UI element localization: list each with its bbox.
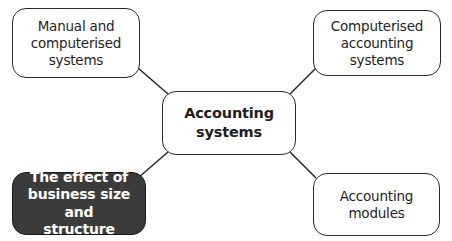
node-line: computerised: [31, 35, 121, 52]
connector-top-left: [138, 68, 168, 94]
node-line: accounting: [331, 35, 423, 52]
node-accounting-modules: Accounting modules: [313, 173, 440, 236]
node-line: modules: [340, 205, 413, 222]
center-line: systems: [184, 123, 274, 142]
node-line: Manual and: [31, 18, 121, 35]
node-line: structure: [13, 221, 145, 239]
connector-bottom-right: [290, 152, 316, 178]
connector-top-right: [290, 68, 316, 94]
node-computerised-accounting-systems: Computerised accounting systems: [313, 10, 441, 76]
center-line: Accounting: [184, 104, 274, 123]
node-line: business size and: [13, 186, 145, 221]
node-line: systems: [31, 52, 121, 69]
node-line: systems: [331, 52, 423, 69]
node-manual-computerised-systems: Manual and computerised systems: [12, 8, 140, 78]
node-line: Computerised: [331, 18, 423, 35]
node-line: The effect of: [13, 169, 145, 187]
node-business-size-structure: The effect of business size and structur…: [12, 172, 146, 235]
node-center-accounting-systems: Accounting systems: [162, 91, 296, 155]
node-line: Accounting: [340, 188, 413, 205]
